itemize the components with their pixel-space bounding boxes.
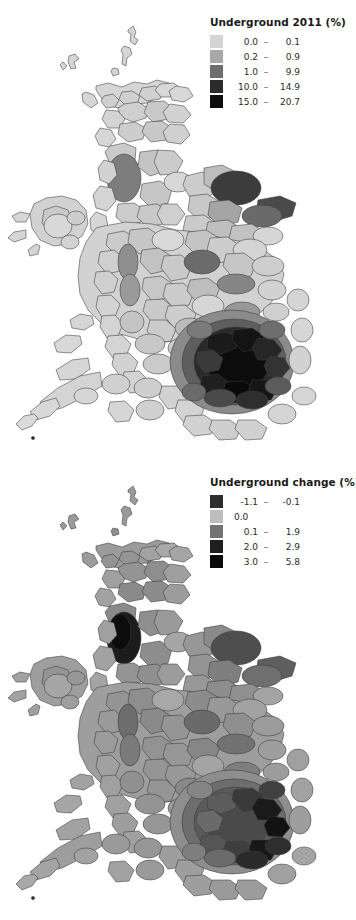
legend-value-low: 10.0 — [232, 82, 258, 92]
legend-underground-change: Underground change (%) -1.1 – -0.1 0.0 — [208, 476, 354, 568]
legend-value-high: 5.8 — [274, 557, 300, 567]
legend-swatch — [210, 525, 223, 538]
legend-value-low: 0.0 — [232, 37, 258, 47]
legend-label-group: 3.0 – 5.8 — [232, 557, 300, 567]
legend-title: Underground change (%) — [210, 476, 354, 488]
legend-value-single: 0.0 — [232, 512, 248, 522]
legend-value-high: 9.9 — [274, 67, 300, 77]
isolated-point — [31, 896, 34, 899]
legend-value-high: -0.1 — [274, 497, 300, 507]
legend-value-low: 0.2 — [232, 52, 258, 62]
legend-swatch — [210, 95, 223, 108]
legend-dash: – — [258, 497, 274, 507]
legend-value-low: -1.1 — [232, 497, 258, 507]
region-northern-isles — [60, 26, 138, 76]
legend-row: 0.0 — [208, 510, 354, 523]
legend-rows: 0.0 – 0.1 0.2 – 0.9 1.0 – 9.9 — [208, 35, 354, 108]
legend-value-high: 1.9 — [274, 527, 300, 537]
legend-dash: – — [258, 527, 274, 537]
legend-swatch — [210, 50, 223, 63]
legend-value-high: 2.9 — [274, 542, 300, 552]
legend-swatch — [210, 540, 223, 553]
legend-value-high: 0.9 — [274, 52, 300, 62]
legend-value-high: 0.1 — [274, 37, 300, 47]
cell-tyneside — [211, 631, 261, 665]
legend-row: 0.1 – 1.9 — [208, 525, 354, 538]
legend-dash: – — [258, 67, 274, 77]
legend-underground-2011: Underground 2011 (%) 0.0 – 0.1 0.2 – 0.9 — [208, 16, 354, 108]
region-northern-isles — [60, 486, 138, 536]
cell-sheffield — [184, 710, 220, 734]
panel-underground-2011: Underground 2011 (%) 0.0 – 0.1 0.2 – 0.9 — [0, 0, 356, 460]
legend-label-group: 10.0 – 14.9 — [232, 82, 300, 92]
legend-dash: – — [258, 557, 274, 567]
legend-row: 10.0 – 14.9 — [208, 80, 354, 93]
legend-row: 2.0 – 2.9 — [208, 540, 354, 553]
legend-dash: – — [258, 97, 274, 107]
region-greater-london — [170, 770, 294, 874]
cell-tyneside — [211, 171, 261, 205]
legend-label-group: 15.0 – 20.7 — [232, 97, 300, 107]
region-scotland-north — [95, 561, 191, 607]
legend-label-group: 2.0 – 2.9 — [232, 542, 300, 552]
legend-value-low: 0.1 — [232, 527, 258, 537]
cell-birmingham — [217, 734, 255, 754]
legend-swatch — [210, 555, 223, 568]
region-greater-london — [170, 310, 294, 414]
cell-birmingham — [217, 274, 255, 294]
legend-dash: – — [258, 542, 274, 552]
legend-swatch — [210, 35, 223, 48]
region-central-belt — [90, 143, 192, 235]
legend-label-group: 0.0 — [232, 512, 248, 522]
panel-underground-change: Underground change (%) -1.1 – -0.1 0.0 — [0, 460, 356, 920]
legend-label-group: 0.2 – 0.9 — [232, 52, 300, 62]
legend-value-low: 2.0 — [232, 542, 258, 552]
legend-row: 15.0 – 20.7 — [208, 95, 354, 108]
legend-dash: – — [258, 37, 274, 47]
region-northern-ireland — [8, 656, 88, 716]
legend-dash: – — [258, 82, 274, 92]
region-central-belt — [90, 603, 192, 695]
legend-value-high: 20.7 — [274, 97, 300, 107]
legend-swatch — [210, 510, 223, 523]
legend-row: 0.2 – 0.9 — [208, 50, 354, 63]
cell-sheffield — [184, 250, 220, 274]
legend-label-group: -1.1 – -0.1 — [232, 497, 300, 507]
legend-value-high: 14.9 — [274, 82, 300, 92]
region-northern-ireland — [8, 196, 88, 256]
legend-label-group: 0.0 – 0.1 — [232, 37, 300, 47]
legend-value-low: 15.0 — [232, 97, 258, 107]
legend-swatch — [210, 495, 223, 508]
legend-label-group: 0.1 – 1.9 — [232, 527, 300, 537]
legend-swatch — [210, 80, 223, 93]
legend-rows: -1.1 – -0.1 0.0 0.1 – 1.9 — [208, 495, 354, 568]
legend-row: 3.0 – 5.8 — [208, 555, 354, 568]
legend-row: -1.1 – -0.1 — [208, 495, 354, 508]
legend-value-low: 3.0 — [232, 557, 258, 567]
legend-row: 0.0 – 0.1 — [208, 35, 354, 48]
legend-dash: – — [258, 52, 274, 62]
isolated-point — [31, 436, 34, 439]
legend-label-group: 1.0 – 9.9 — [232, 67, 300, 77]
legend-row: 1.0 – 9.9 — [208, 65, 354, 78]
region-scotland-north — [95, 101, 191, 147]
legend-swatch — [210, 65, 223, 78]
legend-title: Underground 2011 (%) — [210, 16, 354, 28]
legend-value-low: 1.0 — [232, 67, 258, 77]
